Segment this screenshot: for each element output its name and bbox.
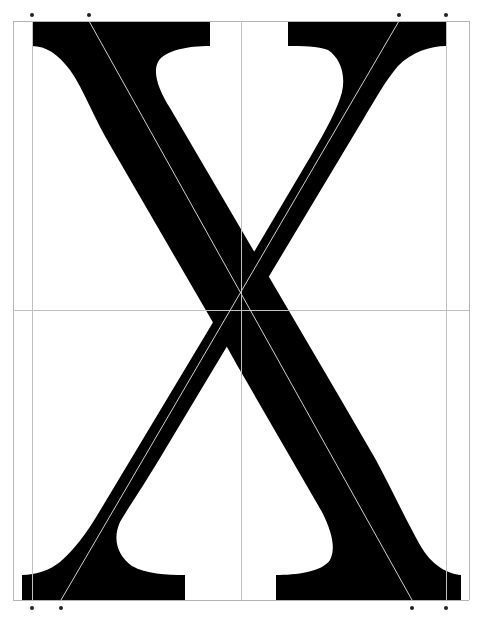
marker-dot-bottom-3 <box>410 606 414 610</box>
letter-construction-diagram: X Construction diagram of a serif capita… <box>0 0 490 619</box>
marker-dot-top-1 <box>30 13 34 17</box>
marker-dot-top-2 <box>87 13 91 17</box>
marker-dot-bottom-4 <box>444 606 448 610</box>
marker-dot-top-3 <box>397 13 401 17</box>
diagram-svg <box>0 0 490 619</box>
marker-dot-top-4 <box>444 13 448 17</box>
marker-dot-bottom-2 <box>59 606 63 610</box>
marker-dot-bottom-1 <box>30 606 34 610</box>
